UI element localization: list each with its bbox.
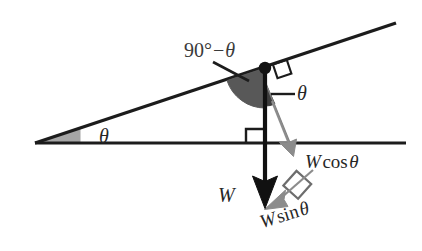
label-complement-angle: 90°−θ <box>184 40 235 60</box>
right-angle-marker-ground <box>246 129 265 143</box>
complement-angle-wedge <box>227 68 265 108</box>
label-weight-vector: W <box>218 185 235 205</box>
theta-symbol: θ <box>225 39 235 61</box>
w-cos-theta-arrow <box>272 101 297 157</box>
label-incline-angle-theta: θ <box>99 126 109 146</box>
complement-angle-value: 90 <box>184 39 204 61</box>
wcos-angle: θ <box>349 151 358 172</box>
apex-point-dot <box>259 62 271 74</box>
minus-symbol: − <box>212 39 225 61</box>
wcos-function: cos <box>322 151 347 172</box>
label-w-cos-theta: W cos θ <box>305 152 359 171</box>
inclined-plane-diagram: 90°−θ θ θ W W cos θ W sin θ <box>0 0 422 251</box>
degree-symbol: ° <box>204 39 212 61</box>
wcos-magnitude: W <box>305 151 321 172</box>
diagram-canvas <box>0 0 422 251</box>
label-apex-angle-theta: θ <box>297 83 307 103</box>
